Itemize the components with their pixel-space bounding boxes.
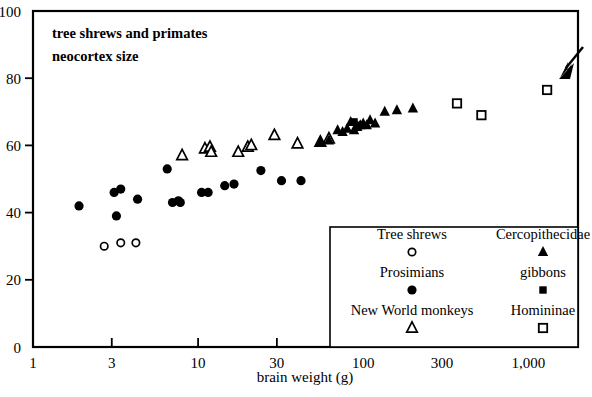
data-point-prosimians <box>204 188 213 197</box>
data-point-prosimians <box>133 195 142 204</box>
legend-marker-filled-circle <box>407 285 416 294</box>
y-tick-label-60: 60 <box>6 138 21 154</box>
chart-title-line-1: tree shrews and primates <box>52 25 208 41</box>
legend-label: gibbons <box>520 264 566 280</box>
data-point-prosimians <box>116 184 125 193</box>
legend-label: Homininae <box>511 302 575 318</box>
scatter-plot-figure: 020406080100 1310301003001,000 brain wei… <box>0 0 592 397</box>
data-point-prosimians <box>163 164 172 173</box>
data-point-tree-shrews <box>101 243 108 250</box>
y-tick-label-100: 100 <box>0 4 21 20</box>
plot-canvas: 020406080100 1310301003001,000 brain wei… <box>0 0 592 397</box>
legend-marker-open-square <box>539 324 547 332</box>
y-tick-label-20: 20 <box>6 272 21 288</box>
legend-label: Prosimians <box>380 264 445 280</box>
data-point-homininae <box>543 86 551 94</box>
legend-label: Tree shrews <box>377 226 447 242</box>
x-tick-label-1: 1 <box>29 355 37 371</box>
y-tick-label-80: 80 <box>6 71 21 87</box>
data-point-prosimians <box>229 179 238 188</box>
data-point-prosimians <box>256 166 265 175</box>
x-tick-label-1000: 1,000 <box>511 355 545 371</box>
data-point-prosimians <box>220 181 229 190</box>
data-point-prosimians <box>277 176 286 185</box>
legend-label: Cercopithecidae <box>496 226 590 242</box>
data-point-homininae <box>477 111 485 119</box>
x-tick-label-300: 300 <box>431 355 454 371</box>
y-tick-label-0: 0 <box>14 340 22 356</box>
x-tick-label-100: 100 <box>352 355 375 371</box>
legend-marker-open-circle <box>408 248 415 255</box>
x-tick-label-10: 10 <box>191 355 206 371</box>
data-point-prosimians <box>176 198 185 207</box>
y-axis-tick-labels: 020406080100 <box>0 4 21 356</box>
chart-title-line-2: neocortex size <box>52 48 139 64</box>
data-point-prosimians <box>74 201 83 210</box>
x-tick-label-3: 3 <box>108 355 116 371</box>
y-tick-label-40: 40 <box>6 205 21 221</box>
x-axis-label: brain weight (g) <box>257 369 354 386</box>
legend-marker-filled-square <box>539 286 546 293</box>
data-point-gibbons <box>357 122 364 129</box>
data-point-prosimians <box>112 211 121 220</box>
data-point-tree-shrews <box>132 239 139 246</box>
data-point-prosimians <box>296 176 305 185</box>
data-point-tree-shrews <box>117 239 124 246</box>
y-axis-ticks <box>25 78 33 280</box>
legend-label: New World monkeys <box>351 302 474 318</box>
data-point-homininae <box>453 99 461 107</box>
